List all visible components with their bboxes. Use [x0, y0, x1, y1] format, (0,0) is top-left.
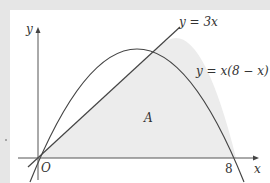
- x-axis-label: x: [254, 162, 261, 176]
- region-a-label: A: [143, 111, 153, 125]
- diagram-canvas: y x O 8 A y = 3x y = x(8 − x): [0, 0, 270, 183]
- margin-dot: [5, 139, 7, 141]
- origin-label: O: [41, 161, 51, 175]
- y-axis-label: y: [25, 22, 33, 36]
- line-equation-label: y = 3x: [178, 15, 218, 29]
- parabola-equation-label: y = x(8 − x): [195, 64, 269, 78]
- x-axis-arrow-icon: [253, 156, 259, 161]
- x-tick-8-label: 8: [225, 162, 233, 176]
- shaded-region-a: [38, 38, 236, 158]
- y-axis-arrow-icon: [36, 27, 41, 33]
